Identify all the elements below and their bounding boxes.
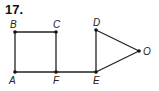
label-O: O [143,46,151,57]
label-C: C [53,19,61,30]
label-A: A [8,75,16,86]
label-F: F [53,75,60,86]
label-B: B [10,19,17,30]
point-B [13,30,17,34]
point-A [13,70,17,74]
point-F [54,70,58,74]
point-D [94,28,98,32]
point-C [54,30,58,34]
point-O [137,49,141,53]
point-E [94,70,98,74]
label-E: E [93,75,100,86]
segment-DO [96,30,139,51]
geometry-diagram: ABCFDEO [0,0,159,91]
label-D: D [93,17,100,28]
segment-EO [96,51,139,72]
